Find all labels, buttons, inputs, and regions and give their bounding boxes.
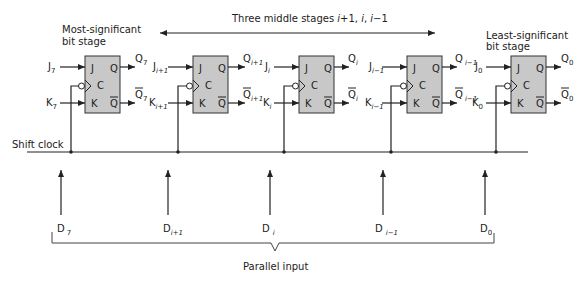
pin-j: J xyxy=(516,63,520,74)
flip-flop-stage-0: J C K Q Q J0 K0 Q0 Q0 D0 xyxy=(472,53,573,237)
pin-q: Q xyxy=(536,63,544,74)
pin-c: C xyxy=(311,80,318,91)
k-label: Ki−1 xyxy=(365,97,384,111)
pin-qbar: Q xyxy=(432,98,440,109)
q-label: Q7 xyxy=(135,53,147,67)
shift-clock-label: Shift clock xyxy=(12,139,64,150)
k-label: K7 xyxy=(46,97,57,111)
parallel-input-label: Parallel input xyxy=(243,261,308,272)
pin-qbar: Q xyxy=(536,98,544,109)
junction-dot xyxy=(389,150,393,154)
q-label: Q0 xyxy=(561,53,573,67)
lsb-label-line2: bit stage xyxy=(486,41,530,52)
pin-q: Q xyxy=(432,63,440,74)
q-label: Qi xyxy=(348,53,358,67)
j-label: Ji+1 xyxy=(152,61,168,75)
pin-c: C xyxy=(523,80,530,91)
shift-register-diagram: Most-significant bit stage Three middle … xyxy=(0,0,585,286)
clock-inversion-bubble-icon xyxy=(293,83,299,89)
q-label: Qi−1 xyxy=(455,53,477,67)
pin-c: C xyxy=(205,80,212,91)
clock-wire xyxy=(178,86,187,152)
flip-flop-stage-i-minus-1: J C K Q Q Ji−1 Ki−1 Qi−1 Qi−1 Di−1 xyxy=(365,53,477,237)
k-label: K0 xyxy=(472,97,483,111)
lsb-label-line1: Least-significant xyxy=(486,30,568,41)
clock-inversion-bubble-icon xyxy=(505,83,511,89)
pin-k: K xyxy=(91,98,98,109)
pin-k: K xyxy=(517,98,524,109)
d-label: D0 xyxy=(480,223,492,237)
junction-dot xyxy=(282,150,286,154)
pin-q: Q xyxy=(110,63,118,74)
clock-wire xyxy=(391,86,401,152)
clock-inversion-bubble-icon xyxy=(79,83,85,89)
j-label: Ji−1 xyxy=(368,61,384,75)
clock-inversion-bubble-icon xyxy=(187,83,193,89)
qbar-label: Qi+1 xyxy=(243,89,263,103)
junction-dot xyxy=(176,150,180,154)
pin-q: Q xyxy=(324,63,332,74)
pin-q: Q xyxy=(218,63,226,74)
d-label: Di+1 xyxy=(163,223,183,237)
clock-wire xyxy=(71,86,79,152)
qbar-label: Q7 xyxy=(135,89,147,103)
pin-qbar: Q xyxy=(110,98,118,109)
d-label: Di xyxy=(262,223,275,237)
j-label: J7 xyxy=(47,61,55,75)
clock-wire xyxy=(284,86,293,152)
pin-k: K xyxy=(305,98,312,109)
clock-wire xyxy=(496,86,505,152)
pin-qbar: Q xyxy=(218,98,226,109)
j-label: J0 xyxy=(474,61,482,75)
flip-flop-stage-i: J C K Q Q Ji Ki Qi Qi Di xyxy=(262,53,358,237)
junction-dot xyxy=(494,150,498,154)
pin-k: K xyxy=(199,98,206,109)
clock-inversion-bubble-icon xyxy=(401,83,407,89)
middle-stages-label: Three middle stages i+1, i, i−1 xyxy=(231,13,388,24)
msb-label-line2: bit stage xyxy=(62,36,106,47)
pin-j: J xyxy=(304,63,308,74)
j-label: Ji xyxy=(264,61,270,75)
qbar-label: Q0 xyxy=(561,89,573,103)
junction-dot xyxy=(69,150,73,154)
pin-c: C xyxy=(97,80,104,91)
q-label: Qi+1 xyxy=(243,53,263,67)
pin-k: K xyxy=(413,98,420,109)
pin-j: J xyxy=(198,63,202,74)
d-label: D7 xyxy=(57,223,71,237)
flip-flop-stage-i-plus-1: J C K Q Q Ji+1 Ki+1 Qi+1 Qi+1 Di+1 xyxy=(149,53,263,237)
pin-c: C xyxy=(419,80,426,91)
pin-j: J xyxy=(90,63,94,74)
qbar-label: Qi xyxy=(348,89,358,103)
msb-label-line1: Most-significant xyxy=(62,24,141,35)
d-label: Di−1 xyxy=(375,223,398,237)
k-label: Ki xyxy=(263,97,272,111)
pin-j: J xyxy=(412,63,416,74)
k-label: Ki+1 xyxy=(149,97,168,111)
pin-qbar: Q xyxy=(324,98,332,109)
